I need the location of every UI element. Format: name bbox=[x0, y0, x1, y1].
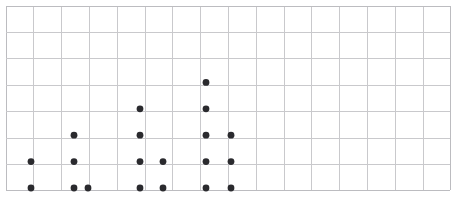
data-point bbox=[203, 132, 210, 139]
data-point bbox=[71, 158, 78, 165]
data-point bbox=[203, 79, 210, 86]
data-point bbox=[203, 105, 210, 112]
data-point bbox=[203, 158, 210, 165]
data-point bbox=[203, 185, 210, 192]
data-point bbox=[160, 158, 167, 165]
dot-series bbox=[28, 79, 235, 191]
data-point bbox=[228, 185, 235, 192]
data-point bbox=[137, 105, 144, 112]
data-point bbox=[137, 132, 144, 139]
plot-area bbox=[0, 0, 456, 200]
data-point bbox=[137, 185, 144, 192]
data-point bbox=[137, 158, 144, 165]
data-point bbox=[160, 185, 167, 192]
dotplot-figure bbox=[0, 0, 456, 200]
data-point bbox=[71, 132, 78, 139]
data-point bbox=[228, 132, 235, 139]
data-point bbox=[85, 185, 92, 192]
data-point bbox=[71, 185, 78, 192]
data-point bbox=[28, 158, 35, 165]
data-point bbox=[228, 158, 235, 165]
data-point bbox=[28, 185, 35, 192]
